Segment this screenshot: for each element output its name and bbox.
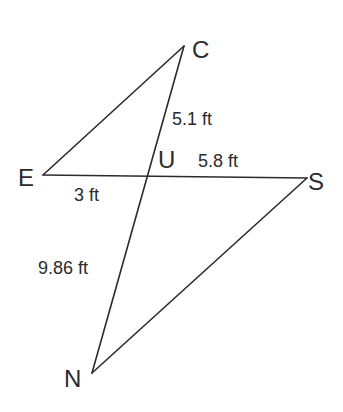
segment-cn (92, 46, 184, 373)
segment-es (43, 175, 307, 178)
segment-sn (92, 178, 307, 373)
vertex-label-e: E (18, 164, 34, 191)
vertex-label-s: S (308, 168, 324, 195)
vertex-label-u: U (158, 146, 175, 173)
segments (43, 46, 307, 373)
measurement-cu: 5.1 ft (172, 109, 212, 129)
measurement-eu: 3 ft (74, 185, 99, 205)
vertex-label-c: C (192, 36, 209, 63)
vertex-label-n: N (64, 365, 81, 392)
measurement-un: 9.86 ft (38, 258, 88, 278)
measurement-labels: 5.1 ft 5.8 ft 3 ft 9.86 ft (38, 109, 238, 278)
geometry-diagram: C E S N U 5.1 ft 5.8 ft 3 ft 9.86 ft (0, 0, 343, 412)
measurement-us: 5.8 ft (198, 151, 238, 171)
